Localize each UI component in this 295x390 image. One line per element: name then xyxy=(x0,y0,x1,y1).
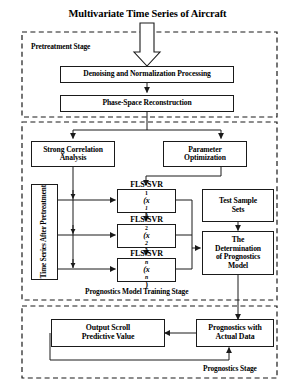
node-fls-svr-2[interactable]: FLS-SVR2(x2) xyxy=(117,224,176,248)
node-output-scroll-label-line2: Predictive Value xyxy=(80,333,137,342)
node-strong-correlation[interactable]: Strong Correlation Analysis xyxy=(31,141,115,167)
node-parameter-optimization-label-line2: Optimization xyxy=(182,154,228,163)
node-prognostics-with-actual-data[interactable]: Prognostics with Actual Data xyxy=(196,319,274,347)
node-parameter-optimization[interactable]: Parameter Optimization xyxy=(163,141,247,167)
node-time-series-label: Time Series After Pretreatment xyxy=(38,185,50,278)
node-fls-svr-n[interactable]: FLS-SVRn(xn) xyxy=(117,258,176,282)
node-denoising-label: Denoising and Normalization Processing xyxy=(81,70,212,79)
node-test-sample-sets-label-line2: Sets xyxy=(230,206,247,215)
node-output-scroll-predictive-value[interactable]: Output Scroll Predictive Value xyxy=(51,319,165,347)
block-arrow-input xyxy=(134,23,160,66)
stage-label-prognostics: Prognostics Stage xyxy=(203,364,257,373)
node-phase-space[interactable]: Phase-Space Reconstruction xyxy=(60,95,234,112)
flowchart-canvas: Multivariate Time Series of Aircraft xyxy=(0,0,295,390)
node-fls-svr-1[interactable]: FLS-SVR1(x1) xyxy=(117,189,176,213)
node-test-sample-sets[interactable]: Test Sample Sets xyxy=(202,189,274,222)
node-phase-space-label: Phase-Space Reconstruction xyxy=(100,99,193,108)
node-fls-svr-n-label: FLS-SVRn(xn) xyxy=(126,250,167,290)
node-determination-of-prognostics-model[interactable]: The Determination of Prognostics Model xyxy=(202,231,274,275)
node-prognostics-actual-label-line2: Actual Data xyxy=(214,333,257,342)
node-time-series-after-pretreatment[interactable]: Time Series After Pretreatment xyxy=(31,184,58,280)
node-denoising[interactable]: Denoising and Normalization Processing xyxy=(60,66,234,83)
stage-label-training: Prognostics Model Training Stage xyxy=(85,287,188,296)
node-strong-correlation-label-line2: Analysis xyxy=(58,154,89,163)
stage-label-pretreatment: Pretreatment Stage xyxy=(31,42,90,51)
node-determination-label-line4: Model xyxy=(226,262,250,271)
